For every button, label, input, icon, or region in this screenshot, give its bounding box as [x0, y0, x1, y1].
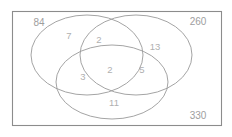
region-label-left-only: 7: [66, 30, 71, 41]
region-label-right-bottom: 5: [139, 64, 144, 75]
region-label-triple: 2: [107, 64, 112, 75]
outside-total-top-left: 84: [33, 17, 45, 28]
outside-total-top-right: 260: [190, 16, 207, 27]
region-label-right-only: 13: [150, 41, 161, 52]
venn-ellipse-right: [80, 15, 192, 95]
region-label-left-right: 2: [96, 34, 101, 45]
outside-total-bottom-right: 330: [190, 110, 207, 121]
region-label-bottom-only: 11: [109, 97, 119, 108]
diagram-border: [13, 12, 222, 126]
region-label-left-bottom: 3: [80, 71, 85, 82]
venn-diagram-figure: 7 2 13 3 2 5 11 84 260 330: [0, 0, 232, 137]
venn-ellipse-bottom: [56, 45, 168, 119]
venn-ellipse-left: [31, 15, 143, 95]
